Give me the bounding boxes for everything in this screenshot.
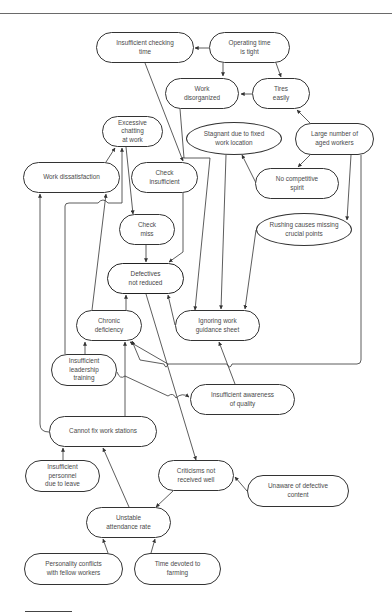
node-rushing-missing-points: Rushing causes missing crucial points: [256, 213, 352, 246]
node-operating-time-tight: Operating time is tight: [209, 32, 290, 63]
node-unaware-defective-content: Unaware of defective content: [247, 475, 349, 507]
node-check-insufficient: Check insufficient: [131, 162, 198, 193]
node-tires-easily: Tires easily: [252, 78, 310, 109]
node-ignoring-guidance-sheet: Ignoring work guidance sheet: [175, 310, 260, 341]
node-work-dissatisfaction: Work dissatisfaction: [23, 162, 120, 193]
node-time-devoted-farming: Time devoted to farming: [134, 553, 221, 585]
node-unstable-attendance: Unstable attendance rate: [86, 507, 171, 538]
node-cannot-fix-work-stations: Cannot fix work stations: [49, 416, 157, 447]
node-defectives-not-reduced: Defectives not reduced: [107, 263, 184, 294]
node-stagnant-fixed-location: Stagnant due to fixed work location: [186, 122, 282, 155]
node-insufficient-personnel-leave: Insufficient personnel due to leave: [25, 460, 100, 492]
node-insufficient-checking-time: Insufficient checking time: [96, 32, 194, 63]
node-no-competitive-spirit: No competitive spirit: [255, 168, 339, 199]
node-insufficient-awareness-quality: Insufficient awareness of quality: [190, 384, 295, 415]
node-chronic-deficiency: Chronic deficiency: [76, 310, 142, 341]
node-criticisms-not-received: Criticisms not received well: [158, 460, 234, 491]
footnote-rule: [25, 611, 72, 612]
node-excessive-chatting: Excessive chatting at work: [102, 116, 163, 147]
node-large-aged-workers: Large number of aged workers: [295, 123, 374, 155]
node-insufficient-leadership-training: Insufficient leadership training: [51, 354, 117, 386]
node-work-disorganized: Work disorganized: [165, 78, 239, 109]
node-personality-conflicts: Personality conflicts with fellow worker…: [24, 553, 123, 585]
node-check-miss: Check miss: [119, 214, 175, 245]
